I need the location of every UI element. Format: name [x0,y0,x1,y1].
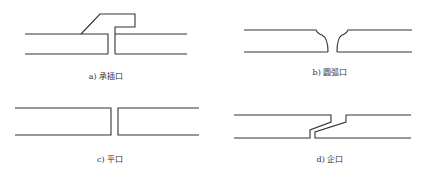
caption-arc-joint: b) 圆弧口 [313,66,348,77]
diagram-arc-joint [244,30,412,52]
diagram-socket-joint [25,14,187,54]
caption-socket-joint: a) 承插口 [89,70,123,81]
diagram-tongue-groove-joint [234,115,411,138]
caption-flat-joint: c) 平口 [97,153,123,164]
pipe-joint-diagrams [0,0,424,177]
diagram-flat-joint [15,108,199,135]
caption-tongue-groove-joint: d) 企口 [317,153,344,164]
